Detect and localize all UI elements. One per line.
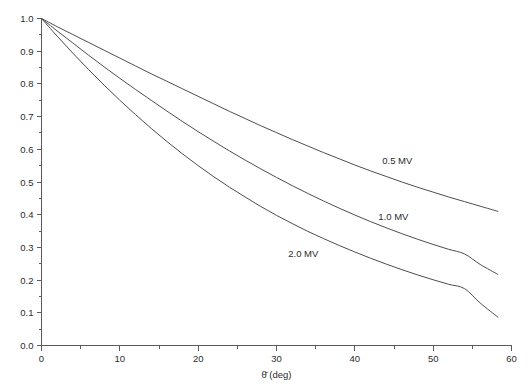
x-tick-label: 60 [506, 353, 517, 364]
chart-figure: 0.00.10.20.30.40.50.60.70.80.91.00102030… [0, 0, 529, 389]
curve-label-2-0-mv: 2.0 MV [288, 248, 319, 259]
y-tick-label: 0.2 [20, 275, 33, 286]
x-tick-label: 20 [193, 353, 204, 364]
axis-ticks-group [37, 19, 512, 351]
y-tick-label: 0.4 [20, 209, 33, 220]
y-tick-label: 0.6 [20, 144, 33, 155]
y-tick-label: 0.7 [20, 111, 33, 122]
y-tick-label: 0.1 [20, 307, 33, 318]
y-tick-label: 0.8 [20, 78, 33, 89]
data-curve-2-0-mv [42, 19, 499, 318]
data-curves-group [42, 19, 499, 318]
x-tick-label: 0 [39, 353, 44, 364]
x-tick-label: 40 [350, 353, 361, 364]
line-chart-plot: 0.00.10.20.30.40.50.60.70.80.91.00102030… [0, 0, 529, 389]
curve-label-0-5-mv: 0.5 MV [382, 155, 413, 166]
axis-tick-labels-group: 0.00.10.20.30.40.50.60.70.80.91.00102030… [20, 13, 517, 364]
x-tick-label: 50 [428, 353, 439, 364]
y-tick-label: 0.0 [20, 340, 33, 351]
axis-title-group: θ̄ (deg) [261, 369, 291, 380]
curve-label-1-0-mv: 1.0 MV [378, 211, 409, 222]
x-axis-title: θ̄ (deg) [261, 369, 291, 380]
axis-spines [42, 19, 512, 346]
data-curve-1-0-mv [42, 19, 499, 275]
y-tick-label: 0.5 [20, 177, 33, 188]
y-tick-label: 0.9 [20, 46, 33, 57]
x-tick-label: 10 [115, 353, 126, 364]
x-tick-label: 30 [271, 353, 282, 364]
axes-group [42, 19, 512, 346]
data-curve-0-5-mv [42, 19, 499, 212]
y-tick-label: 0.3 [20, 242, 33, 253]
y-tick-label: 1.0 [20, 13, 33, 24]
curve-labels-group: 0.5 MV1.0 MV2.0 MV [288, 155, 413, 259]
